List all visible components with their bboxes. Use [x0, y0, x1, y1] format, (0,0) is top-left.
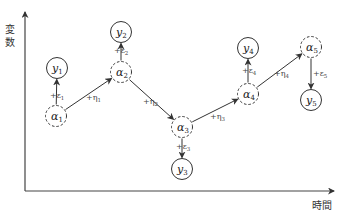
observed-node-y5: y5 [301, 90, 322, 111]
observation-noise-label-4: +ε4 [242, 66, 257, 76]
latent-node-alpha4: α4 [238, 84, 259, 105]
latent-node-alpha1: α1 [46, 106, 67, 127]
observed-node-y4: y4 [238, 38, 259, 59]
observed-node-y1: y1 [47, 58, 68, 79]
edge-labels: +ε1+ε2+ε3+ε4+ε5+η1+η2+η3+η4 [50, 46, 328, 152]
observed-node-y3: y3 [172, 159, 193, 180]
state-noise-label-4: +η4 [274, 69, 290, 79]
observed-node-y2: y2 [111, 22, 132, 43]
observation-noise-label-1: +ε1 [50, 91, 64, 101]
state-space-diagram: 変 数 時間 α1α2α3α4α5y1y2y3y4y5 +ε1+ε2+ε3+ε4… [0, 0, 348, 218]
x-axis-label: 時間 [312, 200, 332, 211]
state-noise-label-1: +η1 [86, 93, 101, 103]
latent-node-alpha5: α5 [301, 37, 322, 58]
latent-node-alpha3: α3 [172, 117, 193, 138]
observation-noise-label-2: +ε2 [114, 46, 128, 56]
y-axis-label-1: 変 [5, 23, 15, 35]
y-axis-label-2: 数 [5, 36, 15, 48]
observation-noise-label-3: +ε3 [176, 142, 191, 152]
observation-noise-label-5: +ε5 [313, 69, 328, 79]
latent-node-alpha2: α2 [111, 62, 132, 83]
state-noise-label-2: +η2 [143, 97, 158, 107]
state-noise-label-3: +η3 [210, 112, 226, 122]
